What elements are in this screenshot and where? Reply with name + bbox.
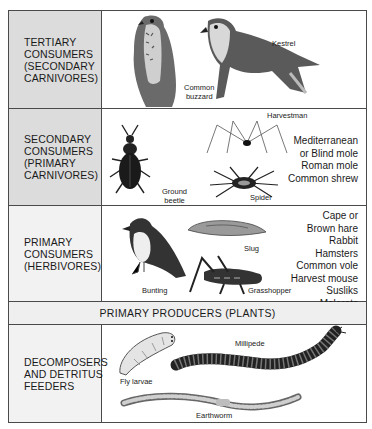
beetle-icon	[108, 125, 152, 195]
grasshopper-label: Grasshopper	[248, 286, 291, 295]
primary-consumers-label: PRIMARY CONSUMERS (HERBIVORES)	[24, 236, 101, 272]
spider-label: Spider	[250, 193, 272, 202]
harvestman-icon	[207, 117, 287, 155]
primary-species-list: Cape or Brown hare Rabbit Hamsters Commo…	[291, 210, 358, 310]
row-content: Ground beetle Harvestman Spider Mediterr…	[102, 109, 366, 205]
harvestman-label: Harvestman	[267, 111, 307, 120]
species-item: Mediterranean	[288, 135, 358, 148]
beetle-label: Ground beetle	[162, 187, 187, 205]
row-decomposers: DECOMPOSERS AND DETRITUS FEEDERS Fly lar	[9, 325, 366, 422]
row-primary-consumers: PRIMARY CONSUMERS (HERBIVORES) Bunting	[9, 206, 366, 302]
millipede-label: Millipede	[235, 339, 265, 348]
row-secondary-consumers: SECONDARY CONSUMERS (PRIMARY CARNIVORES)	[9, 109, 366, 206]
buzzard-icon	[116, 11, 186, 107]
tertiary-consumers-label: TERTIARY CONSUMERS (SECONDARY CARNIVORES…	[24, 36, 98, 84]
millipede-icon	[176, 329, 356, 373]
kestrel-label: Kestrel	[272, 39, 295, 48]
species-item: or Blind mole	[288, 148, 358, 161]
species-item: Rabbit	[291, 235, 358, 248]
decomposers-label: DECOMPOSERS AND DETRITUS FEEDERS	[24, 356, 108, 392]
row-primary-producers: PRIMARY PRODUCERS (PLANTS)	[9, 302, 366, 325]
slug-label: Slug	[244, 244, 259, 253]
species-item: Common vole	[291, 260, 358, 273]
secondary-species-list: Mediterranean or Blind mole Roman mole C…	[288, 135, 358, 185]
slug-icon	[186, 216, 266, 238]
row-label: TERTIARY CONSUMERS (SECONDARY CARNIVORES…	[9, 11, 102, 108]
row-label: DECOMPOSERS AND DETRITUS FEEDERS	[9, 325, 102, 422]
species-item: Harvest mouse	[291, 273, 358, 286]
fly-larvae-label: Fly larvae	[120, 377, 153, 386]
row-tertiary-consumers: TERTIARY CONSUMERS (SECONDARY CARNIVORES…	[9, 11, 366, 109]
row-content: Common buzzard Kestrel	[102, 11, 366, 108]
species-item: Hamsters	[291, 248, 358, 261]
species-item: Roman mole	[288, 160, 358, 173]
row-label: SECONDARY CONSUMERS (PRIMARY CARNIVORES)	[9, 109, 102, 205]
fly-larvae-icon	[116, 329, 178, 375]
row-content: Bunting Slug Grasshopper Cape or Brown h…	[102, 206, 366, 301]
buzzard-label: Common buzzard	[184, 83, 214, 101]
trophic-level-table: TERTIARY CONSUMERS (SECONDARY CARNIVORES…	[8, 10, 367, 423]
species-item: Susliks	[291, 285, 358, 298]
secondary-consumers-label: SECONDARY CONSUMERS (PRIMARY CARNIVORES)	[24, 133, 98, 181]
row-content: Fly larvae Millipede Earthworm	[102, 325, 366, 422]
primary-producers-label: PRIMARY PRODUCERS (PLANTS)	[99, 307, 275, 319]
bunting-label: Bunting	[142, 286, 167, 295]
earthworm-label: Earthworm	[196, 411, 232, 420]
species-item: Common shrew	[288, 173, 358, 186]
row-label: PRIMARY CONSUMERS (HERBIVORES)	[9, 206, 102, 301]
bunting-icon	[120, 212, 190, 286]
species-item: Brown hare	[291, 223, 358, 236]
species-item: Cape or	[291, 210, 358, 223]
